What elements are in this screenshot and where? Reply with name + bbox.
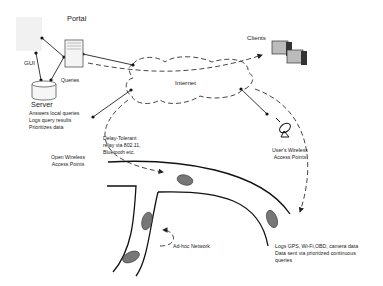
vehicle-note-3: queries	[275, 258, 292, 264]
gui-label: GUI	[24, 59, 35, 66]
network-architecture-diagram: Portal GUI Queries Server Answers local …	[0, 0, 383, 286]
adhoc-link	[160, 230, 174, 246]
gui-screen-icon	[16, 17, 42, 51]
clients-label: Clients	[247, 34, 266, 41]
client-computer-icon	[272, 41, 307, 65]
database-cylinder-icon	[32, 81, 56, 100]
gui-portal-link	[42, 38, 64, 57]
dtn-internet-link	[93, 90, 131, 117]
server-note-3: Prioritizes data	[29, 125, 63, 131]
server-label: Server	[31, 101, 53, 110]
queries-label: Queries	[61, 78, 79, 84]
gui-server-link	[36, 53, 41, 80]
portal-label: Portal	[67, 15, 86, 24]
internet-label: Internet	[175, 79, 196, 86]
open-ap-label-2: Access Points	[46, 162, 90, 168]
users-ap-label-2: Access Points	[262, 155, 318, 161]
server-tower-icon	[65, 40, 83, 67]
satellite-dish-icon	[276, 118, 292, 137]
adhoc-label: Ad-hoc Network	[173, 244, 210, 250]
car-icon	[121, 173, 280, 265]
portal-clients-link	[88, 55, 262, 71]
dtn-label-3: Bluetooth etc.	[103, 150, 135, 156]
